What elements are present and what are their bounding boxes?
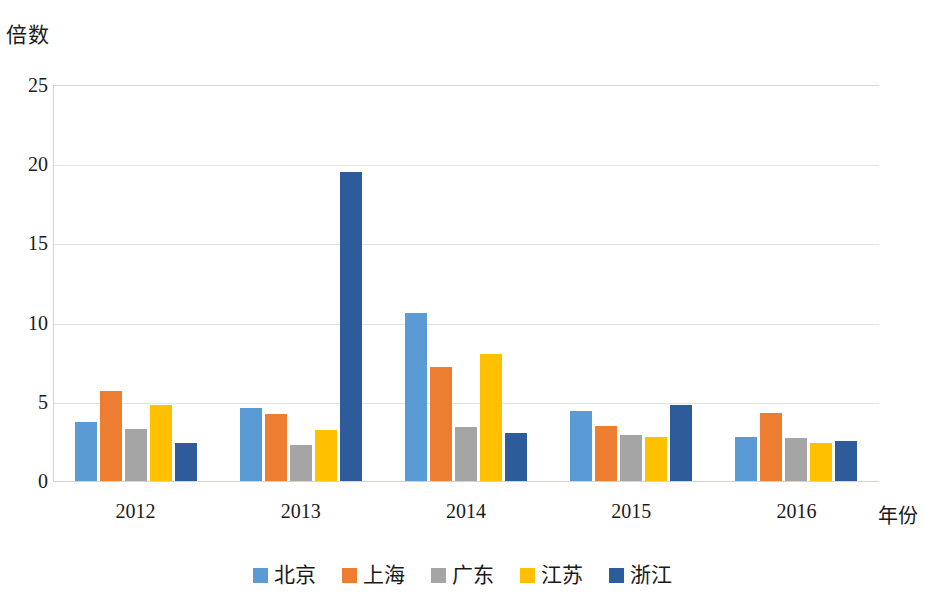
bar-浙江-2014[interactable]: [505, 433, 527, 481]
bar-江苏-2016[interactable]: [810, 443, 832, 481]
bar-group-2012: [53, 85, 218, 481]
bar-浙江-2016[interactable]: [835, 441, 857, 481]
legend-label: 江苏: [541, 565, 583, 586]
y-axis-tick-label: 5: [4, 392, 48, 412]
legend-item-浙江[interactable]: 浙江: [609, 565, 672, 586]
legend-item-上海[interactable]: 上海: [342, 565, 405, 586]
bar-上海-2016[interactable]: [760, 413, 782, 481]
x-axis-line: [53, 481, 879, 482]
bar-北京-2012[interactable]: [75, 422, 97, 481]
legend-swatch-icon: [609, 568, 624, 583]
bar-江苏-2013[interactable]: [315, 430, 337, 481]
bar-浙江-2012[interactable]: [175, 443, 197, 481]
legend-swatch-icon: [342, 568, 357, 583]
x-axis-tick-label: 2013: [281, 500, 321, 523]
legend-label: 浙江: [630, 565, 672, 586]
x-axis-title: 年份: [878, 500, 918, 529]
bar-广东-2013[interactable]: [290, 445, 312, 481]
bar-浙江-2013[interactable]: [340, 172, 362, 481]
bar-浙江-2015[interactable]: [670, 405, 692, 481]
bars-layer: [53, 85, 879, 481]
legend-label: 上海: [363, 565, 405, 586]
bar-广东-2012[interactable]: [125, 429, 147, 481]
bar-group-2013: [218, 85, 383, 481]
bar-北京-2016[interactable]: [735, 437, 757, 481]
y-axis-tick-label: 0: [4, 471, 48, 491]
x-axis-tick-label: 2016: [776, 500, 816, 523]
x-axis-tick-label: 2014: [446, 500, 486, 523]
y-axis-tick-label: 25: [4, 75, 48, 95]
bar-group-2014: [383, 85, 548, 481]
bar-北京-2014[interactable]: [405, 313, 427, 481]
bar-江苏-2012[interactable]: [150, 405, 172, 481]
legend-label: 北京: [274, 565, 316, 586]
bar-上海-2013[interactable]: [265, 414, 287, 481]
y-axis-tick-label: 15: [4, 233, 48, 253]
x-axis-tick-label: 2012: [116, 500, 156, 523]
x-axis-tick-labels: 20122013201420152016: [53, 500, 879, 530]
bar-group-2015: [549, 85, 714, 481]
bar-北京-2015[interactable]: [570, 411, 592, 481]
bar-group-2016: [714, 85, 879, 481]
legend-swatch-icon: [431, 568, 446, 583]
y-axis-tick-labels: 0510152025: [0, 0, 48, 598]
legend-item-北京[interactable]: 北京: [253, 565, 316, 586]
legend-swatch-icon: [253, 568, 268, 583]
bar-上海-2015[interactable]: [595, 426, 617, 481]
bar-江苏-2014[interactable]: [480, 354, 502, 481]
bar-广东-2016[interactable]: [785, 438, 807, 481]
legend-item-广东[interactable]: 广东: [431, 565, 494, 586]
bar-上海-2014[interactable]: [430, 367, 452, 481]
legend-swatch-icon: [520, 568, 535, 583]
x-axis-tick-label: 2015: [611, 500, 651, 523]
bar-广东-2015[interactable]: [620, 435, 642, 481]
bar-广东-2014[interactable]: [455, 427, 477, 481]
y-axis-tick-label: 20: [4, 154, 48, 174]
legend-item-江苏[interactable]: 江苏: [520, 565, 583, 586]
bar-江苏-2015[interactable]: [645, 437, 667, 481]
bar-北京-2013[interactable]: [240, 408, 262, 481]
y-axis-tick-label: 10: [4, 313, 48, 333]
legend-label: 广东: [452, 565, 494, 586]
bar-上海-2012[interactable]: [100, 391, 122, 481]
bar-chart: 倍数 0510152025 20122013201420152016 年份 北京…: [0, 0, 925, 598]
chart-legend: 北京上海广东江苏浙江: [0, 565, 925, 586]
